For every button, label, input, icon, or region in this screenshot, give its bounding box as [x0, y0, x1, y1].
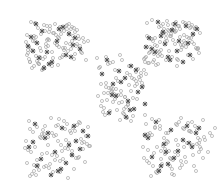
centroid-marker [67, 32, 71, 36]
centroid-marker [164, 150, 168, 154]
centroid-marker [60, 126, 64, 130]
centroid-marker [100, 72, 104, 76]
centroid-marker [53, 150, 57, 154]
centroid-marker [39, 157, 43, 161]
centroid-marker [119, 80, 123, 84]
centroid-marker [27, 145, 31, 149]
centroid-marker [176, 149, 180, 153]
centroid-marker [181, 60, 185, 64]
centroid-marker [143, 102, 147, 106]
centroid-marker [168, 58, 172, 62]
centroid-marker [136, 90, 140, 94]
centroid-marker [156, 20, 160, 24]
centroid-marker [61, 25, 65, 29]
centroid-marker [74, 139, 78, 143]
centroid-marker [26, 44, 30, 48]
centroid-marker [187, 141, 191, 145]
centroid-marker [29, 35, 33, 39]
centroid-marker [150, 47, 154, 51]
centroid-marker [124, 115, 128, 119]
centroid-marker [173, 22, 177, 26]
centroid-marker [86, 134, 90, 138]
centroid-marker [177, 39, 181, 43]
centroid-marker [191, 32, 195, 36]
centroid-marker [134, 68, 138, 72]
scatter-plot-figure [0, 0, 219, 185]
centroid-marker [35, 164, 39, 168]
centroid-marker [150, 155, 154, 159]
centroid-marker [161, 30, 165, 34]
centroid-marker [46, 131, 50, 135]
centroid-marker [159, 34, 163, 38]
centroid-marker [42, 66, 46, 70]
centroid-marker [170, 28, 174, 32]
centroid-marker [111, 82, 115, 86]
centroid-marker [34, 22, 38, 26]
centroid-marker [70, 153, 74, 157]
centroid-marker [57, 27, 61, 31]
centroid-marker [33, 122, 37, 126]
plot-area [0, 0, 219, 185]
centroid-marker [169, 128, 173, 132]
centroid-marker [143, 133, 147, 137]
centroid-marker [157, 169, 161, 173]
centroid-marker [49, 173, 53, 177]
centroid-marker [40, 29, 44, 33]
centroid-marker [45, 50, 49, 54]
centroid-marker [159, 164, 163, 168]
centroid-marker [64, 53, 68, 57]
centroid-marker [163, 42, 167, 46]
centroid-marker [114, 94, 118, 98]
centroid-marker [117, 69, 121, 73]
centroid-marker [71, 43, 75, 47]
centroid-marker [59, 167, 63, 171]
centroid-marker [129, 64, 133, 68]
centroid-marker [78, 47, 82, 51]
centroid-marker [78, 147, 82, 151]
centroid-marker [31, 49, 35, 53]
centroid-marker [81, 129, 85, 133]
centroid-marker [162, 142, 166, 146]
centroid-marker [64, 161, 68, 165]
centroid-marker [73, 36, 77, 40]
centroid-marker [31, 140, 35, 144]
centroid-marker [140, 85, 144, 89]
centroid-marker [188, 53, 192, 57]
centroid-marker [147, 36, 151, 40]
centroid-marker [126, 99, 130, 103]
centroid-marker [110, 93, 114, 97]
centroid-marker [194, 131, 198, 135]
centroid-marker [47, 62, 51, 66]
scatter-canvas [0, 0, 219, 185]
centroid-marker [132, 107, 136, 111]
centroid-marker [185, 124, 189, 128]
centroid-marker [195, 27, 199, 31]
centroid-marker [172, 156, 176, 160]
centroid-marker [37, 56, 41, 60]
centroid-marker [154, 120, 158, 124]
centroid-marker [35, 41, 39, 45]
centroid-marker [123, 76, 127, 80]
centroid-marker [197, 126, 201, 130]
centroid-marker [105, 58, 109, 62]
centroid-marker [128, 108, 132, 112]
centroid-marker [69, 55, 73, 59]
centroid-marker [184, 24, 188, 28]
centroid-marker [107, 111, 111, 115]
centroid-marker [43, 136, 47, 140]
centroid-marker [55, 39, 59, 43]
centroid-marker [175, 49, 179, 53]
centroid-marker [144, 45, 148, 49]
centroid-marker [72, 124, 76, 128]
centroid-marker [181, 138, 185, 142]
centroid-marker [186, 41, 190, 45]
centroid-marker [190, 145, 194, 149]
centroid-marker [67, 143, 71, 147]
centroid-marker [166, 162, 170, 166]
